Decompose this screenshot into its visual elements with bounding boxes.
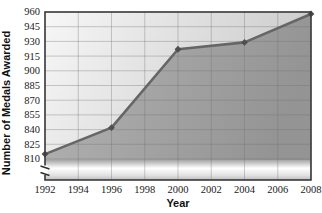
x-tick-label: 2008 — [301, 184, 322, 195]
y-tick-label: 825 — [24, 139, 40, 150]
medals-line-chart: 8108258408558708859009159309459601992199… — [0, 0, 322, 213]
y-tick-label: 930 — [24, 36, 40, 47]
y-tick-label: 900 — [24, 65, 40, 76]
y-tick-label: 870 — [24, 95, 40, 106]
y-tick-label: 810 — [24, 153, 40, 164]
x-tick-label: 1996 — [101, 184, 122, 195]
y-tick-label: 855 — [24, 109, 40, 120]
y-tick-label: 885 — [24, 80, 40, 91]
x-tick-label: 2002 — [201, 184, 222, 195]
y-axis-title: Number of Medals Awarded — [0, 31, 12, 175]
x-tick-label: 2004 — [234, 184, 256, 195]
x-tick-label: 2000 — [168, 184, 189, 195]
x-tick-label: 1994 — [68, 184, 90, 195]
y-tick-label: 840 — [24, 124, 40, 135]
medals-line-chart-figure: 8108258408558708859009159309459601992199… — [0, 0, 322, 213]
x-tick-label: 1998 — [134, 184, 155, 195]
y-tick-label: 960 — [24, 6, 40, 17]
x-axis-title: Year — [166, 197, 190, 209]
y-tick-label: 945 — [24, 21, 40, 32]
y-tick-label: 915 — [24, 51, 40, 62]
x-tick-label: 1992 — [35, 184, 56, 195]
x-tick-label: 2006 — [267, 184, 288, 195]
